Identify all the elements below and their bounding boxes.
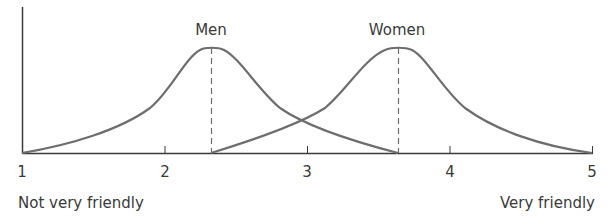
men-curve (22, 48, 398, 153)
x-tick-label-2: 2 (160, 163, 170, 181)
x-axis-right-end-label: Very friendly (500, 194, 595, 212)
x-axis-left-end-label: Not very friendly (18, 194, 144, 212)
women-label: Women (369, 21, 425, 39)
x-tick-label-1: 1 (17, 163, 27, 181)
women-curve (211, 48, 592, 153)
x-tick-label-5: 5 (587, 163, 597, 181)
x-tick-label-4: 4 (445, 163, 455, 181)
x-tick-label-3: 3 (302, 163, 312, 181)
men-label: Men (195, 21, 227, 39)
friendliness-distribution-chart: Men Women 1 2 3 4 5 Not very friendly Ve… (0, 0, 612, 223)
